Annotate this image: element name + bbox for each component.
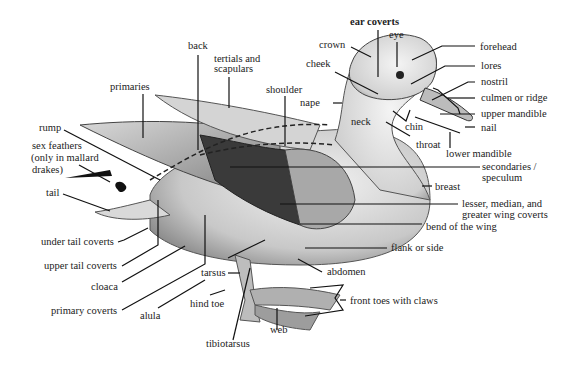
label-forehead: forehead: [480, 41, 517, 52]
label-cheek: cheek: [306, 58, 330, 69]
duck-eye: [396, 71, 404, 79]
label-upper-tail-coverts: upper tail coverts: [44, 260, 117, 271]
label-ear-coverts: ear coverts: [350, 16, 399, 27]
label-back: back: [188, 40, 208, 51]
label-crown: crown: [319, 39, 345, 50]
label-neck: neck: [351, 116, 371, 127]
label-sex-feathers-line2: (only in mallard: [31, 152, 99, 163]
label-lower-mandible: lower mandible: [446, 148, 512, 159]
label-web: web: [270, 324, 288, 335]
label-wing-coverts-line2: greater wing coverts: [462, 209, 548, 220]
label-bend-of-wing: bend of the wing: [426, 221, 497, 232]
label-wing-coverts-line1: lesser, median, and: [462, 198, 542, 209]
label-culmen: culmen or ridge: [481, 92, 547, 103]
label-breast: breast: [435, 181, 460, 192]
label-sex-feathers-line3: drakes): [32, 164, 63, 175]
sex-feather: [65, 170, 112, 178]
label-flank: flank or side: [391, 242, 444, 253]
label-throat: throat: [416, 139, 441, 150]
label-rump: rump: [39, 122, 61, 133]
label-eye: eye: [389, 29, 404, 40]
duck-head: [349, 34, 436, 99]
label-abdomen: abdomen: [327, 266, 366, 277]
label-hind-toe: hind toe: [190, 298, 224, 309]
label-primary-coverts: primary coverts: [51, 305, 117, 316]
label-secondaries-line1: secondaries /: [482, 161, 537, 172]
label-tibiotarsus: tibiotarsus: [206, 338, 250, 349]
duck-tail-curl: [115, 182, 126, 192]
label-nape: nape: [300, 97, 320, 108]
label-chin: chin: [405, 121, 423, 132]
label-tertials-line2: scapulars: [214, 63, 253, 74]
label-secondaries-line2: speculum: [482, 172, 522, 183]
label-nostril: nostril: [481, 76, 508, 87]
label-under-tail-coverts: under tail coverts: [41, 236, 114, 247]
label-alula: alula: [140, 310, 160, 321]
label-tarsus: tarsus: [201, 267, 226, 278]
label-front-toes: front toes with claws: [350, 295, 438, 306]
label-nail: nail: [481, 122, 497, 133]
duck-anatomy-diagram: ear coverts eye crown forehead cheek lor…: [0, 0, 577, 367]
duck-web: [255, 305, 320, 330]
label-primaries: primaries: [110, 81, 150, 92]
label-cloaca: cloaca: [91, 281, 118, 292]
label-shoulder: shoulder: [266, 84, 302, 95]
label-upper-mandible: upper mandible: [481, 108, 547, 119]
label-sex-feathers-line1: sex feathers: [32, 140, 82, 151]
label-lores: lores: [481, 60, 501, 71]
label-tail: tail: [46, 187, 59, 198]
